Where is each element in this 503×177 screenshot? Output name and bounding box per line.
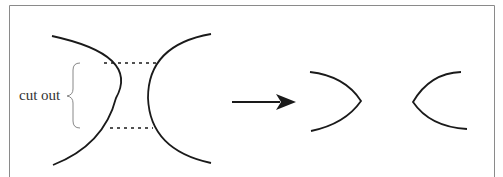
result-left-shape	[310, 72, 361, 131]
right-arc	[148, 34, 211, 163]
curly-brace	[67, 63, 80, 128]
cut-out-diagram: cut out	[0, 0, 503, 177]
result-right-shape	[413, 72, 467, 129]
left-arc	[52, 36, 121, 165]
cut-out-label: cut out	[19, 87, 61, 103]
